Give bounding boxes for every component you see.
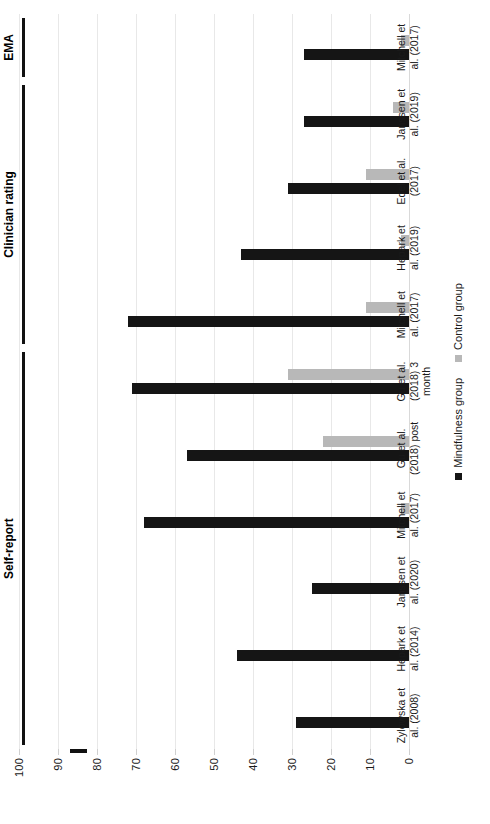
tick-10 bbox=[370, 749, 371, 755]
group-bracket bbox=[22, 352, 25, 745]
category-label: Mitchell etal. (2017) bbox=[395, 14, 420, 81]
category-label-line: al. (2008) bbox=[408, 682, 421, 749]
bar-mindfulness bbox=[237, 650, 409, 661]
legend-item: Control group bbox=[452, 283, 464, 362]
group-label: Self-report bbox=[2, 352, 16, 745]
tick-40 bbox=[253, 749, 254, 755]
category-label: Hepark etal. (2014) bbox=[395, 615, 420, 682]
bar-group bbox=[19, 81, 409, 148]
category-label-line: Janssen et bbox=[395, 81, 408, 148]
category-label-line: Gu et al. bbox=[395, 348, 408, 415]
category-label: Zylowska etal. (2008) bbox=[395, 682, 420, 749]
category-label-line: Mitchell et bbox=[395, 482, 408, 549]
group-bracket bbox=[22, 85, 25, 344]
category-label-line: al. (2017) bbox=[408, 482, 421, 549]
value-axis-label-80: 80 bbox=[91, 758, 103, 771]
value-axis-label-40: 40 bbox=[247, 758, 259, 771]
category-label-line: al. (2020) bbox=[408, 549, 421, 616]
group-brackets: Self-reportClinician ratingEMA bbox=[14, 0, 34, 824]
bar-group bbox=[19, 415, 409, 482]
chart-rotation-wrapper: 1009080706050403020100 Zylowska etal. (2… bbox=[0, 0, 490, 824]
category-label-line: al. (2019) bbox=[408, 214, 421, 281]
category-label: Edel et al.(2017) bbox=[395, 148, 420, 215]
group-bracket bbox=[22, 18, 25, 77]
category-label: Gu et al.(2018) post bbox=[395, 415, 420, 482]
tick-20 bbox=[331, 749, 332, 755]
value-axis-label-10: 10 bbox=[364, 758, 376, 771]
axis-origin-marker bbox=[70, 749, 87, 753]
category-label-line: al. (2014) bbox=[408, 615, 421, 682]
category-label-line: (2018) post bbox=[408, 415, 421, 482]
bar-group bbox=[19, 615, 409, 682]
category-label: Mitchell etal. (2017) bbox=[395, 482, 420, 549]
category-label-line: Mitchell et bbox=[395, 281, 408, 348]
category-label: Hepark etal. (2019) bbox=[395, 214, 420, 281]
bar-mindfulness bbox=[187, 450, 409, 461]
bar-mindfulness bbox=[241, 249, 409, 260]
tick-60 bbox=[175, 749, 176, 755]
category-label: Janssen etal. (2020) bbox=[395, 549, 420, 616]
bar-mindfulness bbox=[144, 517, 409, 528]
tick-90 bbox=[58, 749, 59, 755]
bar-group bbox=[19, 281, 409, 348]
value-axis-label-50: 50 bbox=[208, 758, 220, 771]
bar-control bbox=[288, 369, 409, 380]
tick-50 bbox=[214, 749, 215, 755]
tick-70 bbox=[136, 749, 137, 755]
tick-0 bbox=[409, 749, 410, 755]
category-label-line: al. (2017) bbox=[408, 281, 421, 348]
category-label-line: al. (2019) bbox=[408, 81, 421, 148]
category-label: Gu et al.(2018) 3month bbox=[395, 348, 433, 415]
legend-swatch bbox=[455, 355, 462, 362]
plot-area: 1009080706050403020100 bbox=[19, 14, 409, 749]
bar-group bbox=[19, 148, 409, 215]
value-axis-label-70: 70 bbox=[130, 758, 142, 771]
category-label-line: (2017) bbox=[408, 148, 421, 215]
category-label-line: (2018) 3 bbox=[408, 348, 421, 415]
group-label: Clinician rating bbox=[2, 85, 16, 344]
category-label-line: Zylowska et bbox=[395, 682, 408, 749]
value-axis-label-60: 60 bbox=[169, 758, 181, 771]
legend-item: Mindfulness group bbox=[452, 378, 464, 480]
bar-mindfulness bbox=[304, 116, 409, 127]
bar-mindfulness bbox=[128, 316, 409, 327]
bar-group bbox=[19, 214, 409, 281]
value-axis-label-90: 90 bbox=[52, 758, 64, 771]
bar-mindfulness bbox=[304, 49, 409, 60]
value-axis-label-20: 20 bbox=[325, 758, 337, 771]
category-label-line: Hepark et bbox=[395, 214, 408, 281]
bar-mindfulness bbox=[288, 183, 409, 194]
category-label: Mitchell etal. (2017) bbox=[395, 281, 420, 348]
legend-label: Control group bbox=[452, 283, 464, 350]
tick-30 bbox=[292, 749, 293, 755]
category-label-line: month bbox=[420, 348, 433, 415]
category-label-line: Hepark et bbox=[395, 615, 408, 682]
chart-legend: Mindfulness groupControl group bbox=[452, 14, 464, 749]
legend-swatch bbox=[455, 473, 462, 480]
legend-label: Mindfulness group bbox=[452, 378, 464, 468]
value-axis-label-30: 30 bbox=[286, 758, 298, 771]
category-label-line: Gu et al. bbox=[395, 415, 408, 482]
value-axis-label-0: 0 bbox=[403, 758, 415, 764]
category-label-line: al. (2017) bbox=[408, 14, 421, 81]
bar-group bbox=[19, 682, 409, 749]
bar-group bbox=[19, 348, 409, 415]
bar-group bbox=[19, 482, 409, 549]
group-label: EMA bbox=[2, 18, 16, 77]
category-label: Janssen etal. (2019) bbox=[395, 81, 420, 148]
category-label-line: Mitchell et bbox=[395, 14, 408, 81]
bar-group bbox=[19, 14, 409, 81]
bar-chart: 1009080706050403020100 Zylowska etal. (2… bbox=[0, 0, 490, 824]
tick-80 bbox=[97, 749, 98, 755]
bar-mindfulness bbox=[296, 717, 409, 728]
bar-group bbox=[19, 549, 409, 616]
category-label-line: Edel et al. bbox=[395, 148, 408, 215]
category-label-line: Janssen et bbox=[395, 549, 408, 616]
bar-mindfulness bbox=[132, 383, 409, 394]
